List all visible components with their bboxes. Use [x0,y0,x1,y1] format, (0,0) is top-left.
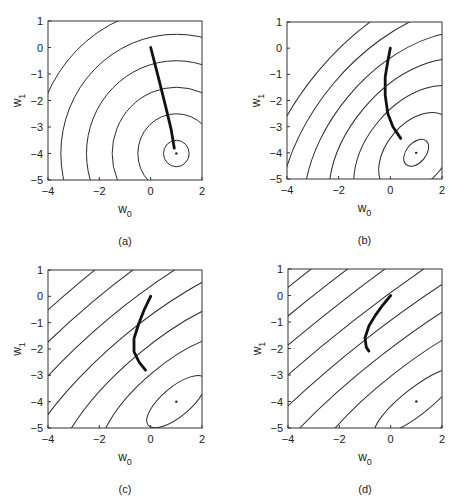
contour-line [122,147,461,504]
x-tick-label: −2 [93,433,106,445]
x-tick-label: 2 [439,184,445,196]
x-tick-label: −2 [332,184,345,196]
minimum-marker [175,152,177,154]
panel-caption: (d) [358,483,371,495]
x-tick-label: 0 [148,185,154,197]
panel-caption: (a) [118,235,131,247]
x-tick-label: −2 [93,185,106,197]
x-tick-label: 0 [387,184,393,196]
contour-line [364,98,461,207]
contour-line [294,26,461,281]
contour-line [0,200,393,504]
x-tick-label: −4 [281,184,294,196]
x-tick-label: −4 [42,433,55,445]
y-tick-label: 1 [276,16,282,28]
y-tick-label: 1 [37,264,43,276]
y-axis-label: w1 [10,342,27,357]
y-tick-label: 0 [37,42,43,54]
y-tick-label: −3 [30,121,43,133]
contour-line [0,6,461,504]
figure-svg: −4−202−5−4−3−2−101w0w1(a)−4−202−5−4−3−2−… [0,0,461,504]
y-tick-label: −3 [30,369,43,381]
minimum-marker [415,152,417,154]
x-axis-label: w0 [357,450,372,467]
y-tick-label: −5 [269,173,282,185]
x-tick-label: −2 [333,433,346,445]
axes-frame [48,21,202,180]
y-tick-label: −4 [30,148,43,160]
y-tick-label: −4 [30,396,43,408]
x-tick-label: 2 [199,433,205,445]
gradient-trajectory [151,48,175,149]
x-tick-label: −4 [282,433,295,445]
y-tick-label: −5 [270,422,283,434]
x-tick-label: 2 [199,185,205,197]
panel-caption: (c) [119,483,132,495]
y-tick-label: −5 [30,174,43,186]
x-axis-label: w0 [117,202,132,219]
contour-line [204,218,461,504]
x-tick-label: 0 [148,433,154,445]
y-tick-label: −1 [269,68,282,80]
axes-frame [48,270,202,428]
x-tick-label: 2 [439,433,445,445]
y-tick-label: −4 [270,396,283,408]
contour-line [224,0,461,353]
y-tick-label: −1 [30,68,43,80]
contour-line [189,0,461,389]
panel-caption: (b) [358,234,371,246]
y-tick-label: 0 [276,42,282,54]
y-tick-label: 1 [37,15,43,27]
contour-lines [189,0,461,389]
axes-frame [288,269,442,428]
y-tick-label: −4 [269,147,282,159]
y-tick-label: −2 [269,95,282,107]
y-axis-label: w1 [10,94,27,109]
y-tick-label: −2 [30,95,43,107]
minimum-marker [415,400,417,402]
contour-line [329,62,461,244]
x-tick-label: −4 [42,185,55,197]
y-tick-label: −3 [269,121,282,133]
y-tick-label: 0 [277,290,283,302]
gradient-trajectory [385,48,401,138]
y-axis-label: w1 [249,94,266,109]
y-tick-label: −3 [270,369,283,381]
x-tick-label: 0 [388,433,394,445]
y-tick-label: 1 [277,263,283,275]
x-axis-label: w0 [117,450,132,467]
y-tick-label: −2 [270,343,283,355]
y-axis-label: w1 [250,342,267,357]
y-tick-label: −1 [270,316,283,328]
gradient-trajectory [134,296,151,370]
contour-line [367,359,461,444]
y-tick-label: −1 [30,317,43,329]
axes-frame [287,22,442,179]
x-axis-label: w0 [357,201,372,218]
y-tick-label: −2 [30,343,43,355]
y-tick-label: 0 [37,290,43,302]
minimum-marker [175,400,177,402]
panel-b: −4−202−5−4−3−2−101w0w1(b) [189,0,461,389]
y-tick-label: −5 [30,422,43,434]
